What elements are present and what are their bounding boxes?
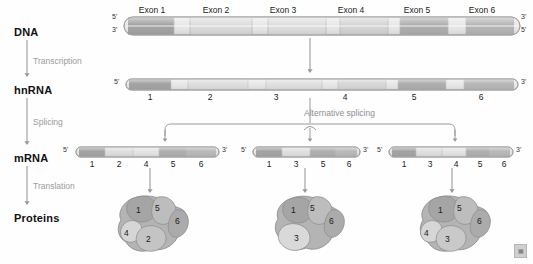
protein-3-domain-5: 3 <box>445 234 450 244</box>
splicing-diagram: DNA hnRNA mRNA Proteins Transcription Sp… <box>0 0 533 264</box>
protein-3-domain-4: 4 <box>424 228 429 238</box>
protein-3-domain-3: 6 <box>477 216 482 226</box>
protein-blob-3 <box>0 0 533 264</box>
watermark-icon: ▦ <box>514 244 527 258</box>
protein-3-domain-1: 1 <box>438 205 443 215</box>
protein-3-domain-2: 5 <box>457 203 462 213</box>
